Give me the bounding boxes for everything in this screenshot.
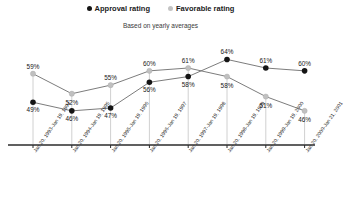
data-label-approval: 60% [298,60,311,67]
data-label-approval: 56% [143,86,156,93]
data-label-approval: 61% [259,57,272,64]
data-label-approval: 47% [104,112,117,119]
data-point-favorable [69,91,74,96]
data-point-approval [30,99,36,105]
data-point-favorable [263,94,268,99]
data-label-favorable: 55% [104,74,117,81]
data-point-approval [224,57,230,63]
data-point-favorable [147,68,152,73]
data-point-favorable [186,65,191,70]
data-label-approval: 64% [221,48,234,55]
data-label-favorable: 60% [143,60,156,67]
data-label-approval: 49% [27,106,40,113]
data-label-favorable: 61% [182,57,195,64]
data-point-approval [147,79,153,85]
data-point-favorable [302,108,307,113]
data-point-approval [69,108,75,114]
data-label-approval: 46% [65,115,78,122]
data-point-favorable [224,74,229,79]
data-point-favorable [108,83,113,88]
data-label-favorable: 46% [298,116,311,123]
data-point-approval [185,74,191,80]
data-label-favorable: 59% [27,63,40,70]
data-label-favorable: 58% [221,82,234,89]
data-label-approval: 58% [182,81,195,88]
data-point-favorable [30,71,35,76]
data-point-approval [263,65,269,71]
data-point-approval [302,68,308,74]
